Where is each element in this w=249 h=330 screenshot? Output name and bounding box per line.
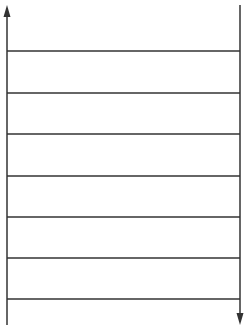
- ladder-diagram: [0, 0, 249, 330]
- arrow-up-icon: [4, 5, 11, 17]
- arrow-down-icon: [237, 313, 244, 325]
